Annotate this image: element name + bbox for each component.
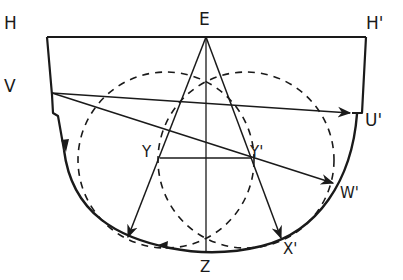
label-Y-prime: Y' bbox=[249, 143, 263, 161]
point-labels: H E H' V U' Y Y' W' X' Z bbox=[4, 9, 383, 276]
curve-arrows bbox=[61, 139, 168, 249]
ray-V-to-U-prime bbox=[52, 93, 350, 113]
diagram-svg: H E H' V U' Y Y' W' X' Z bbox=[0, 0, 403, 280]
rays bbox=[52, 37, 350, 238]
ray-V-to-W-prime bbox=[52, 93, 333, 183]
label-Y: Y bbox=[141, 143, 152, 161]
ray-E-to-X-prime bbox=[206, 37, 281, 238]
label-V: V bbox=[4, 76, 16, 96]
label-H-prime: H' bbox=[366, 13, 383, 33]
label-X-prime: X' bbox=[283, 240, 297, 258]
label-H: H bbox=[4, 13, 17, 33]
label-U-prime: U' bbox=[365, 110, 382, 130]
label-W-prime: W' bbox=[340, 184, 359, 202]
label-Z: Z bbox=[200, 258, 210, 276]
bottom-curve bbox=[64, 114, 357, 252]
ray-E-to-left-bottom bbox=[128, 37, 206, 237]
construction-lines bbox=[160, 37, 251, 253]
label-E: E bbox=[199, 9, 210, 29]
geometry-diagram: H E H' V U' Y Y' W' X' Z bbox=[0, 0, 403, 280]
right-wall bbox=[352, 37, 366, 113]
